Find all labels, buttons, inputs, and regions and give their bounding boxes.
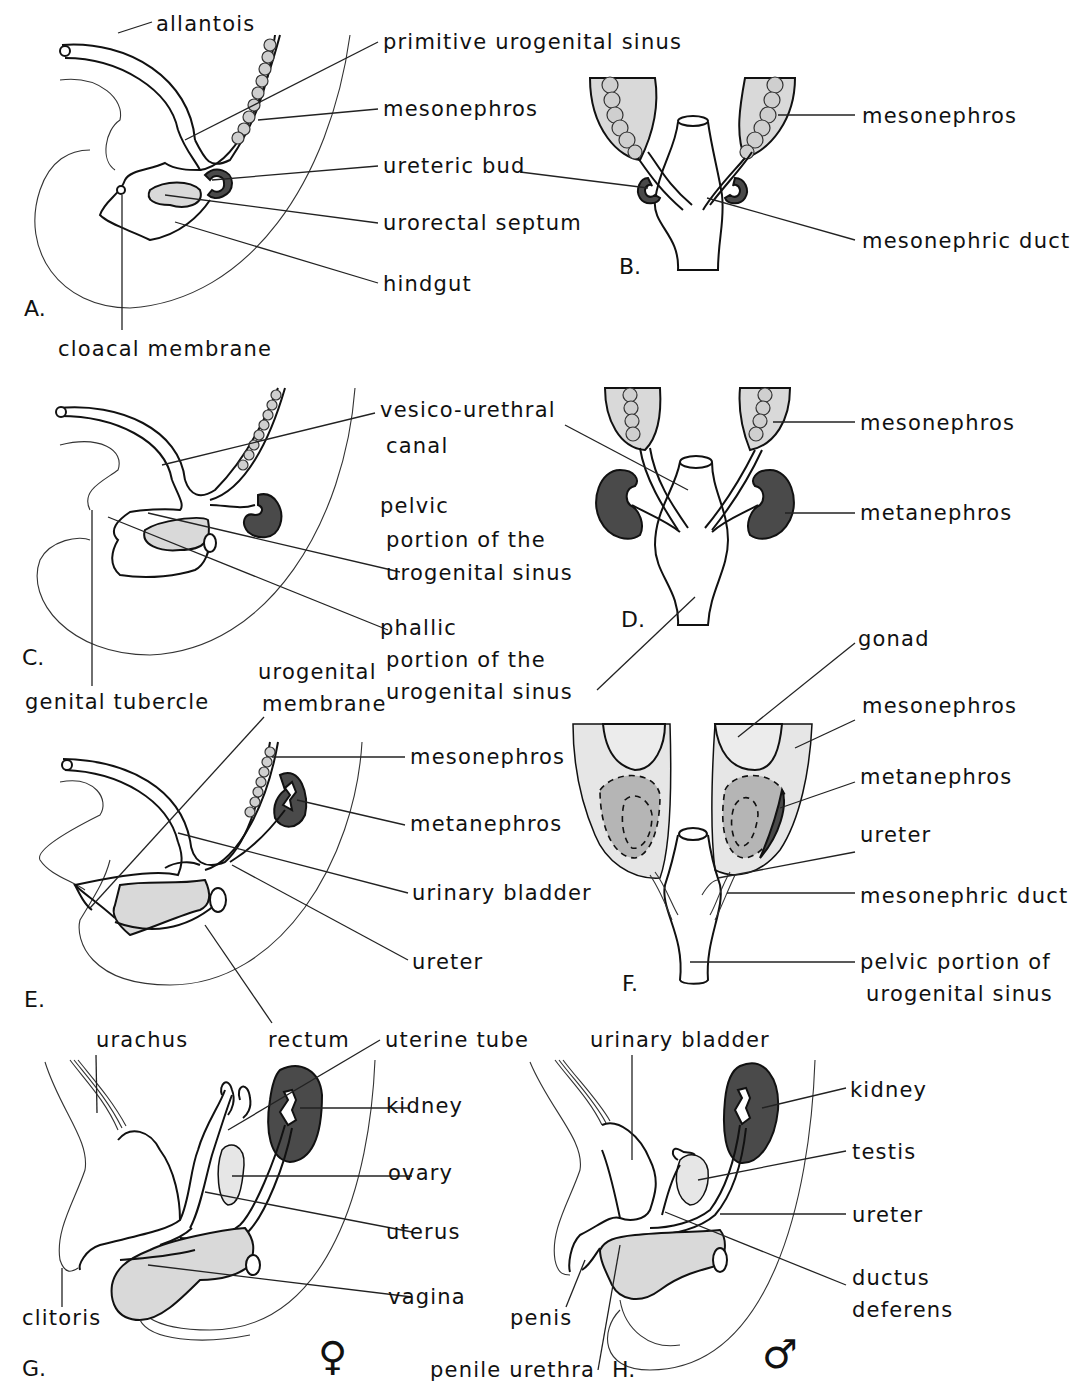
label-phallic-line1: phallic: [380, 616, 457, 640]
label-rectum: rectum: [268, 1028, 350, 1052]
panel-e-drawing: [40, 742, 362, 985]
label-ductus-line2: deferens: [852, 1298, 954, 1322]
panel-letter-d: D.: [621, 608, 645, 632]
label-ureter-f: ureter: [860, 823, 931, 847]
label-cloacal-membrane: cloacal membrane: [58, 337, 272, 361]
panel-letter-e: E.: [24, 988, 45, 1012]
panel-letter-c: C.: [22, 646, 44, 670]
panel-g-drawing: [45, 1060, 375, 1340]
male-symbol-icon: ♂: [762, 1334, 798, 1374]
panel-c-drawing: [37, 388, 355, 655]
label-vesico-urethral-line1: vesico-urethral: [380, 398, 556, 422]
label-primitive-urogenital-sinus: primitive urogenital sinus: [383, 30, 682, 54]
label-phallic-line3: urogenital sinus: [386, 680, 573, 704]
panel-a-drawing: [35, 35, 350, 308]
label-ureteric-bud: ureteric bud: [383, 154, 526, 178]
label-metanephros-e: metanephros: [410, 812, 563, 836]
label-pelvic-line3: urogenital sinus: [386, 561, 573, 585]
label-testis: testis: [852, 1140, 916, 1164]
label-mesonephric-duct-f: mesonephric duct: [860, 884, 1068, 908]
panel-letter-f: F.: [622, 972, 638, 996]
label-ovary: ovary: [388, 1161, 453, 1185]
panel-a-leaders: [118, 22, 378, 330]
label-kidney-h: kidney: [850, 1078, 927, 1102]
label-pelvic-line2: portion of the: [386, 528, 546, 552]
label-urorectal-septum: urorectal septum: [383, 211, 582, 235]
label-mesonephros-e: mesonephros: [410, 745, 565, 769]
label-penis: penis: [510, 1306, 572, 1330]
label-phallic-line2: portion of the: [386, 648, 546, 672]
label-uterus: uterus: [386, 1220, 461, 1244]
label-vagina: vagina: [388, 1285, 466, 1309]
panel-letter-a: A.: [24, 297, 46, 321]
label-mesonephric-duct-b: mesonephric duct: [862, 229, 1070, 253]
label-mesonephros-b: mesonephros: [862, 104, 1017, 128]
panel-f-drawing: [573, 724, 812, 984]
label-urinary-bladder-h: urinary bladder: [590, 1028, 770, 1052]
label-metanephros-d: metanephros: [860, 501, 1013, 525]
label-pelvic-portion-line1: pelvic portion of: [860, 950, 1051, 974]
label-kidney-g: kidney: [386, 1094, 463, 1118]
label-ductus-line1: ductus: [852, 1266, 930, 1290]
panel-letter-h: H.: [612, 1358, 635, 1382]
label-pelvic-line1: pelvic: [380, 494, 449, 518]
label-mesonephros-f: mesonephros: [862, 694, 1017, 718]
panel-letter-g: G.: [22, 1357, 46, 1381]
label-pelvic-portion-line2: urogenital sinus: [866, 982, 1053, 1006]
label-metanephros-f: metanephros: [860, 765, 1013, 789]
label-allantois: allantois: [156, 12, 255, 36]
panel-d-drawing: [596, 388, 794, 625]
label-urinary-bladder-e: urinary bladder: [412, 881, 592, 905]
label-genital-tubercle: genital tubercle: [25, 690, 209, 714]
label-urogenital-membrane-line1: urogenital: [258, 660, 377, 684]
panel-b-drawing: [590, 77, 795, 270]
label-vesico-urethral-line2: canal: [386, 434, 448, 458]
panel-letter-b: B.: [619, 255, 641, 279]
label-mesonephros-a: mesonephros: [383, 97, 538, 121]
label-clitoris: clitoris: [22, 1306, 101, 1330]
label-hindgut: hindgut: [383, 272, 472, 296]
label-gonad: gonad: [858, 627, 930, 651]
label-penile-urethra: penile urethra: [430, 1358, 595, 1382]
label-uterine-tube: uterine tube: [385, 1028, 529, 1052]
label-ureter-e: ureter: [412, 950, 483, 974]
label-urogenital-membrane-line2: membrane: [262, 692, 387, 716]
female-symbol-icon: ♀: [318, 1336, 347, 1376]
label-mesonephros-d: mesonephros: [860, 411, 1015, 435]
label-ureter-h: ureter: [852, 1203, 923, 1227]
label-urachus: urachus: [96, 1028, 188, 1052]
